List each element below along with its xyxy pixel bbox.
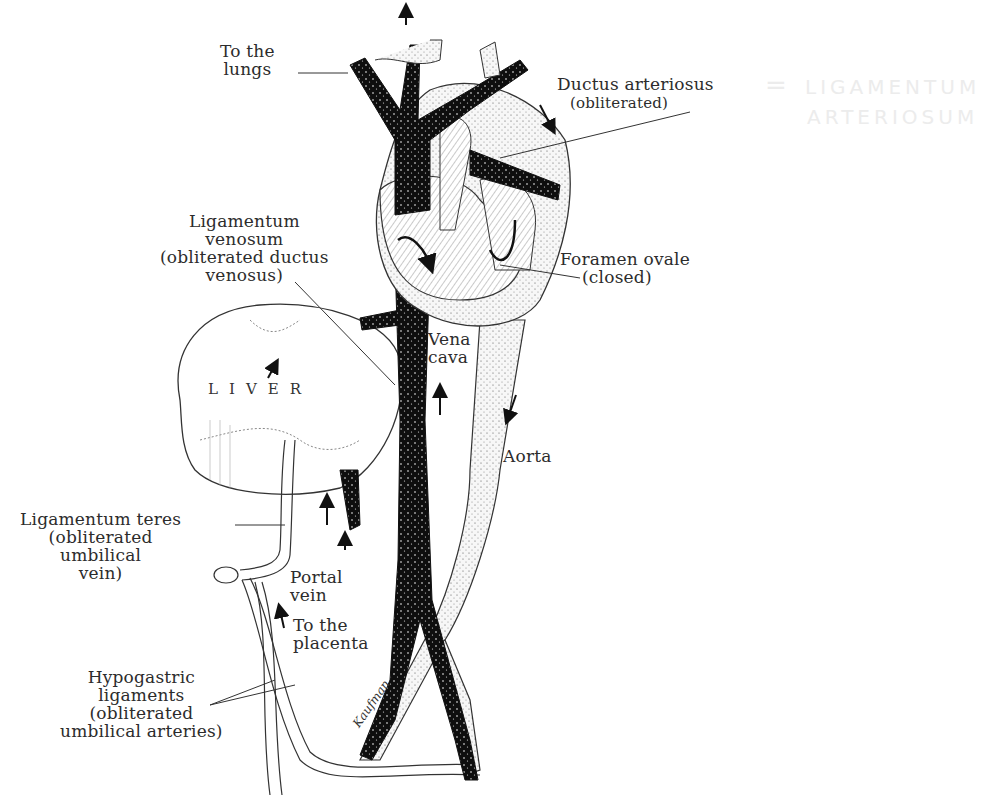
label-ligamentum-venosum: Ligamentum venosum (obliterated ductus v… [160,212,329,284]
label-portal-vein: Portal vein [290,568,343,604]
label-aorta: Aorta [503,447,552,465]
handwritten-equals: = [765,70,791,100]
label-hypogastric-ligaments: Hypogastric ligaments (obliterated umbil… [60,668,223,740]
label-ligamentum-teres: Ligamentum teres (obliterated umbilical … [20,510,181,582]
label-foramen-ovale: Foramen ovale [560,250,690,268]
label-to-lungs: To the lungs [220,42,275,78]
label-ductus-arteriosus-note: (obliterated) [570,95,668,111]
label-ductus-arteriosus: Ductus arteriosus [557,75,714,93]
label-foramen-ovale-note: (closed) [582,268,652,286]
label-vena-cava: Vena cava [428,330,471,366]
label-to-placenta: To the placenta [293,616,369,652]
label-liver: LIVER [208,380,312,398]
liver [178,304,402,494]
handwritten-note: LIGAMENTUM ARTERIOSUM [805,72,980,132]
